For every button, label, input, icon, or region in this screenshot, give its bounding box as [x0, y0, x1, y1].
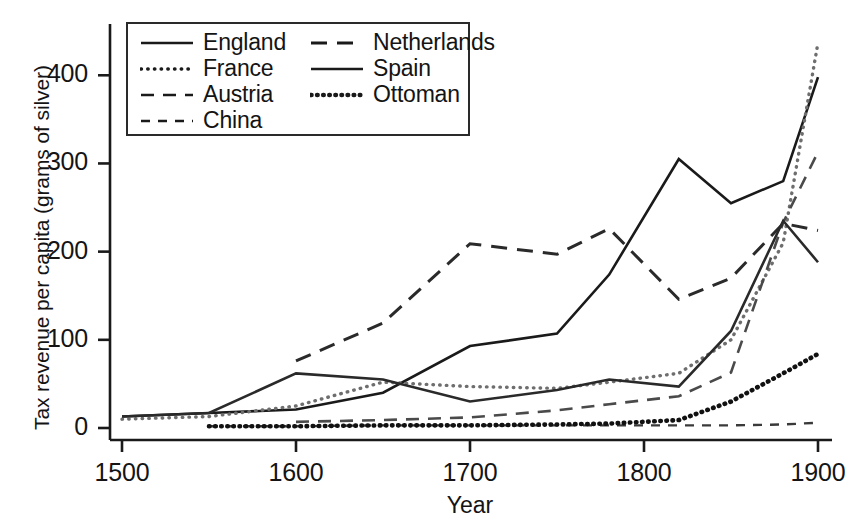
- x-tick-label: 1800: [594, 458, 694, 487]
- chart-figure: Tax revenue per capita (grams of silver)…: [0, 0, 868, 529]
- legend-item[interactable]: Spain: [310, 56, 495, 81]
- series-line-ottoman: [209, 354, 818, 426]
- legend-item[interactable]: Netherlands: [310, 30, 495, 55]
- series-line-netherlands: [296, 223, 818, 361]
- legend-swatch-england-icon: [140, 36, 194, 50]
- legend-swatch-netherlands-icon: [310, 36, 364, 50]
- x-tick-label: 1700: [420, 458, 520, 487]
- x-tick-label: 1500: [72, 458, 172, 487]
- series-line-austria: [296, 152, 818, 422]
- legend-label: Austria: [203, 83, 273, 106]
- y-tick-label: 0: [74, 412, 88, 441]
- y-tick-label: 400: [47, 59, 88, 88]
- y-tick-label: 100: [47, 324, 88, 353]
- y-tick-label: 200: [47, 236, 88, 265]
- legend-column-1: EnglandFranceAustriaChina: [140, 30, 286, 134]
- legend-swatch-ottoman-icon: [310, 88, 364, 102]
- legend-label: Spain: [373, 57, 431, 80]
- legend-swatch-france-icon: [140, 62, 194, 76]
- legend-swatch-austria-icon: [140, 88, 194, 102]
- legend-item[interactable]: Ottoman: [310, 82, 495, 107]
- x-tick-label: 1900: [768, 458, 868, 487]
- y-tick-label: 300: [47, 147, 88, 176]
- legend-column-2: NetherlandsSpainOttoman: [310, 30, 495, 108]
- legend-item[interactable]: France: [140, 56, 286, 81]
- legend-item[interactable]: Austria: [140, 82, 286, 107]
- legend-label: France: [203, 57, 273, 80]
- legend-label: England: [203, 31, 286, 54]
- legend-swatch-china-icon: [140, 114, 194, 128]
- legend-grid: EnglandFranceAustriaChina NetherlandsSpa…: [128, 24, 468, 134]
- legend-item[interactable]: China: [140, 108, 286, 133]
- series-line-spain: [122, 221, 818, 417]
- x-tick-label: 1600: [246, 458, 346, 487]
- x-axis-label: Year: [350, 492, 590, 519]
- legend-swatch-spain-icon: [310, 62, 364, 76]
- legend-label: China: [203, 109, 262, 132]
- legend-label: Netherlands: [373, 31, 495, 54]
- legend-label: Ottoman: [373, 83, 460, 106]
- legend-item[interactable]: England: [140, 30, 286, 55]
- legend: EnglandFranceAustriaChina NetherlandsSpa…: [126, 22, 470, 136]
